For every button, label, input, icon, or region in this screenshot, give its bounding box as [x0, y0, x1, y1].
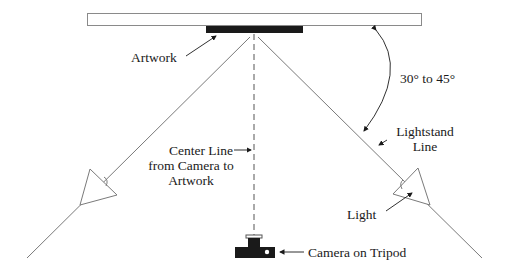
light-label: Light — [347, 207, 376, 222]
artwork-label: Artwork — [131, 50, 177, 65]
center-line-label-1: Center Line — [143, 143, 239, 158]
center-line-label-2: from Camera to — [140, 158, 242, 173]
wall — [88, 14, 422, 26]
right-light-icon — [393, 168, 430, 205]
center-line-label-3: Artwork — [140, 173, 242, 188]
camera-label: Camera on Tripod — [308, 245, 406, 260]
lightstand-label-1: Lightstand — [390, 124, 460, 139]
angle-arc — [364, 30, 390, 131]
lightstand-arrow — [379, 140, 387, 145]
angle-label: 30° to 45° — [400, 71, 455, 86]
camera-icon — [235, 235, 275, 258]
artwork — [206, 26, 303, 33]
lightstand-label-2: Line — [390, 139, 460, 154]
artwork-arrow — [186, 36, 216, 56]
